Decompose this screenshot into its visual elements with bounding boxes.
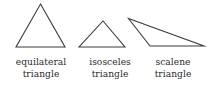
label-isosceles-line1: isosceles: [82, 56, 138, 68]
label-scalene-line1: scalene: [140, 56, 206, 68]
equilateral-triangle: [16, 4, 65, 47]
label-equilateral-line1: equilateral: [0, 56, 82, 68]
label-scalene-triangle: scalene triangle: [140, 56, 206, 80]
label-equilateral-line2: triangle: [0, 68, 82, 80]
label-scalene-line2: triangle: [140, 68, 206, 80]
triangle-types-figure: equilateral triangle isosceles triangle …: [0, 0, 208, 93]
scalene-triangle: [129, 19, 205, 47]
triangle-labels-row: equilateral triangle isosceles triangle …: [0, 56, 208, 93]
label-equilateral-triangle: equilateral triangle: [0, 56, 82, 80]
label-isosceles-triangle: isosceles triangle: [82, 56, 138, 80]
label-isosceles-line2: triangle: [82, 68, 138, 80]
isosceles-triangle: [79, 21, 125, 47]
